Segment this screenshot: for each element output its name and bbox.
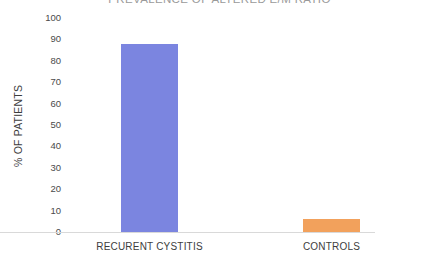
y-axis-tick-40: 40 [21, 141, 61, 151]
y-axis-tick-50: 50 [21, 120, 61, 130]
y-axis-tick-90: 90 [21, 34, 61, 44]
bar-recurent-cystitis[interactable] [121, 44, 178, 232]
plot-area [64, 14, 433, 232]
y-axis-tick-10: 10 [21, 206, 61, 216]
y-axis-tick-100: 100 [21, 13, 61, 23]
bar-controls[interactable] [303, 219, 360, 232]
x-axis-category-label: CONTROLS [222, 241, 439, 252]
y-axis-tick-60: 60 [21, 99, 61, 109]
y-axis-tick-20: 20 [21, 184, 61, 194]
y-axis-tick-labels: 1009080706050403020100 [16, 0, 61, 267]
y-axis-tick-70: 70 [21, 77, 61, 87]
chart-title: PREVALENCE OF ALTERED E/M RATIO [0, 0, 439, 5]
bar-chart: PREVALENCE OF ALTERED E/M RATIO % OF PAT… [0, 0, 439, 267]
y-axis-tick-80: 80 [21, 56, 61, 66]
x-axis-line [0, 232, 375, 233]
y-axis-tick-30: 30 [21, 163, 61, 173]
